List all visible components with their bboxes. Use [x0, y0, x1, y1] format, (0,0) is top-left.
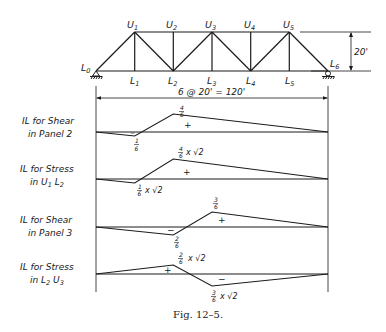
influence-line-figure: L0 L1 L2 L3 L4 L5 L6 U1 U2 U3 U4 U5 20' …: [0, 0, 386, 332]
il2-min-tail: x √2: [144, 186, 162, 195]
il3-min-den: 6: [175, 242, 179, 249]
pin-support-left: [90, 71, 103, 79]
diagonal-l4u5: [251, 32, 290, 71]
il1-min-den: 6: [135, 145, 139, 152]
il3-min-num: 2: [175, 235, 179, 242]
truss: [96, 32, 328, 71]
node-labels: L0 L1 L2 L3 L4 L5 L6 U1 U2 U3 U4 U5: [81, 19, 339, 88]
il3-plus-sign: +: [218, 215, 226, 225]
il2-min-num: 1: [138, 183, 142, 190]
il4-max-den: 6: [179, 258, 183, 265]
end-post-left: [96, 32, 135, 71]
il2-max-num: 4: [179, 145, 183, 152]
il4-plus-sign: +: [164, 265, 172, 275]
node-label-l6: L6: [330, 58, 339, 71]
il1-max-den: 6: [180, 111, 184, 118]
il-shear-panel-3: IL for Shear in Panel 3 3 6 2 6 + −: [20, 196, 328, 249]
node-label-l0: L0: [81, 62, 90, 75]
node-label-l4: L4: [246, 75, 255, 88]
diagonal-u3l4: [212, 32, 251, 71]
il2-title-line1: IL for Stress: [20, 164, 74, 174]
il4-min-den: 6: [212, 296, 216, 303]
node-label-l2: L2: [168, 75, 177, 88]
il3-title-line1: IL for Shear: [20, 215, 73, 225]
node-label-l1: L1: [130, 75, 139, 88]
il2-max-den: 6: [179, 152, 183, 159]
il4-max-tail: x √2: [187, 254, 205, 263]
il2-title-line2: in U1 L2: [30, 177, 64, 189]
il3-title-line2: in Panel 3: [28, 228, 73, 238]
roller-support-right: [322, 71, 335, 79]
il3-minus-sign: −: [167, 225, 175, 235]
il4-title-line2: in L2 U3: [30, 275, 64, 287]
il1-min-num: 1: [135, 137, 139, 144]
extension-lines: [96, 86, 328, 292]
diagonal-l2u3: [173, 32, 212, 71]
diagonal-u1l2: [135, 32, 174, 71]
il4-max-num: 2: [179, 251, 183, 258]
il1-max-num: 4: [180, 104, 184, 111]
node-label-u5: U5: [283, 19, 294, 32]
il-stress-u1l2: IL for Stress in U1 L2 4 6 x √2 1 6 x √2…: [20, 145, 328, 197]
span-label: 6 @ 20' = 120': [178, 87, 245, 97]
il2-min-den: 6: [138, 190, 142, 197]
figure-caption: Fig. 12–5.: [173, 309, 223, 320]
end-post-right: [289, 32, 328, 71]
node-label-l5: L5: [285, 75, 294, 88]
il-stress-l2u3: IL for Stress in L2 U3 2 6 x √2 3 6 x √2…: [20, 251, 328, 303]
node-label-u4: U4: [244, 19, 255, 32]
il4-minus-sign: −: [218, 274, 226, 284]
il2-max-tail: x √2: [185, 148, 203, 157]
il4-min-num: 3: [212, 289, 216, 296]
il1-title-line1: IL for Shear: [22, 116, 75, 126]
il1-title-line2: in Panel 2: [28, 129, 73, 139]
il2-plus-sign: +: [183, 167, 191, 177]
il-shear-panel-2: IL for Shear in Panel 2 4 6 1 6 + −: [22, 104, 328, 152]
node-label-u1: U1: [127, 19, 138, 32]
il4-min-tail: x √2: [219, 292, 237, 301]
il4-curve: [96, 265, 328, 286]
node-label-u2: U2: [166, 19, 177, 32]
il1-plus-sign: +: [184, 120, 192, 130]
il4-title-line1: IL for Stress: [20, 262, 74, 272]
il3-max-den: 6: [214, 203, 218, 210]
height-label: 20': [354, 47, 368, 57]
il3-max-num: 3: [214, 196, 218, 203]
node-label-u3: U3: [205, 19, 216, 32]
il1-minus-sign: −: [130, 129, 135, 136]
il3-curve: [96, 212, 328, 235]
